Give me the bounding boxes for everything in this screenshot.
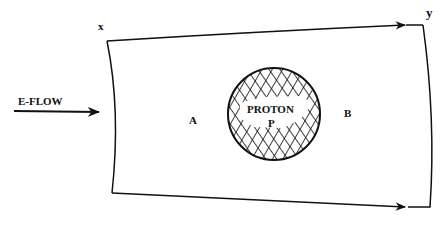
corner-label-y: y <box>426 6 433 19</box>
proton-title-label: PROTON <box>247 104 294 115</box>
corner-label-x: x <box>98 21 104 32</box>
proton-symbol-label: P <box>268 118 275 129</box>
top-streamline <box>107 25 405 41</box>
e-flow-arrow <box>14 111 99 112</box>
region-label-b: B <box>344 108 351 119</box>
bottom-streamline <box>112 193 405 207</box>
left-boundary <box>107 41 116 193</box>
proton-circle <box>220 60 330 170</box>
region-label-a: A <box>189 115 197 126</box>
e-flow-label: E-FLOW <box>18 96 63 107</box>
diagram-canvas <box>0 0 445 228</box>
right-boundary <box>408 25 432 207</box>
